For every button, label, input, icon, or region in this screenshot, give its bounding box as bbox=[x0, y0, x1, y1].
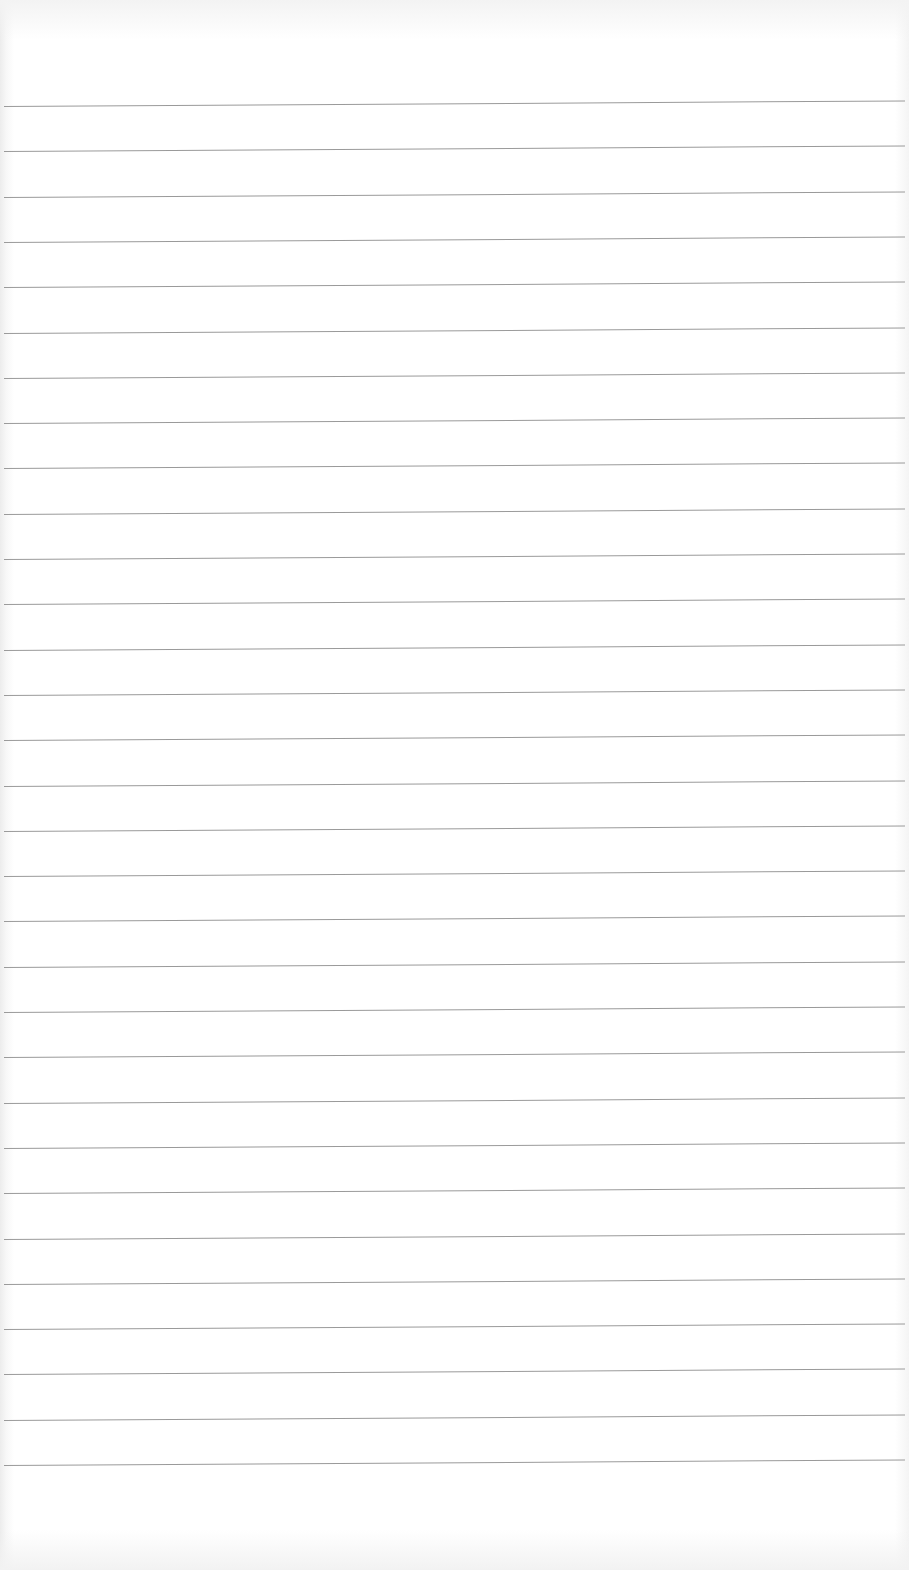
ruled-line bbox=[4, 1233, 905, 1240]
bottom-edge-shadow bbox=[0, 1530, 909, 1570]
ruled-line bbox=[4, 462, 905, 469]
ruled-line bbox=[4, 145, 905, 152]
ruled-line bbox=[4, 915, 905, 922]
ruled-line bbox=[4, 236, 905, 243]
ruled-line bbox=[4, 1006, 905, 1013]
ruled-line bbox=[4, 1414, 905, 1421]
ruled-line bbox=[4, 689, 905, 696]
ruled-line bbox=[4, 1097, 905, 1104]
ruled-line bbox=[4, 1368, 905, 1375]
ruled-line bbox=[4, 870, 905, 877]
ruled-line bbox=[4, 191, 905, 198]
ruled-line bbox=[4, 1051, 905, 1058]
ruled-line bbox=[4, 508, 905, 515]
top-edge-shadow bbox=[0, 0, 909, 40]
ruled-line bbox=[4, 780, 905, 787]
ruled-line bbox=[4, 417, 905, 424]
ruled-line bbox=[4, 281, 905, 288]
ruled-line bbox=[4, 644, 905, 651]
ruled-line bbox=[4, 1142, 905, 1149]
ruled-line bbox=[4, 327, 905, 334]
lined-paper-page bbox=[0, 0, 909, 1570]
ruled-line bbox=[4, 372, 905, 379]
ruled-line bbox=[4, 100, 905, 107]
ruled-line bbox=[4, 1278, 905, 1285]
ruled-line bbox=[4, 825, 905, 832]
ruled-line bbox=[4, 1459, 905, 1466]
ruled-line bbox=[4, 1323, 905, 1330]
ruled-line bbox=[4, 1187, 905, 1194]
ruled-line bbox=[4, 598, 905, 605]
ruled-line bbox=[4, 553, 905, 560]
ruled-line bbox=[4, 961, 905, 968]
ruled-line bbox=[4, 734, 905, 741]
